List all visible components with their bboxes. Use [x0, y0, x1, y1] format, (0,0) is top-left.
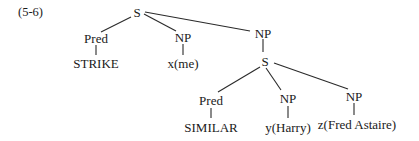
- node-np-4: NP: [346, 90, 363, 103]
- edge-s-np2: [145, 12, 250, 31]
- edge-s2-pred2: [218, 67, 260, 92]
- example-number: (5-6): [18, 6, 43, 19]
- node-s-2: S: [261, 55, 268, 68]
- leaf-similar: SIMILAR: [184, 121, 237, 134]
- edge-s2-np3: [266, 68, 281, 90]
- leaf-z-fred-astaire: z(Fred Astaire): [318, 118, 396, 131]
- node-np-3: NP: [280, 92, 297, 105]
- leaf-y-harry: y(Harry): [265, 121, 310, 134]
- edge-s2-np4: [274, 63, 348, 89]
- node-np-1: NP: [175, 31, 192, 44]
- node-pred-2: Pred: [199, 94, 223, 107]
- node-root-s: S: [133, 6, 140, 19]
- node-pred-1: Pred: [84, 32, 108, 45]
- leaf-x-me: x(me): [167, 57, 198, 70]
- node-np-2: NP: [255, 27, 272, 40]
- syntax-tree-diagram: (5-6) S Pred STRIKE NP x(me) NP S Pred S…: [0, 0, 419, 141]
- leaf-strike: STRIKE: [73, 57, 119, 70]
